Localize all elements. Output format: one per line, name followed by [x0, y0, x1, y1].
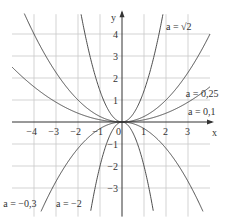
x-tick-label: −4	[26, 126, 37, 137]
y-tick-label: 3	[113, 51, 118, 62]
y-axis-label: y	[111, 12, 116, 23]
x-tick-label: −2	[70, 126, 81, 137]
x-tick-label: −3	[48, 126, 59, 137]
curve-label: a = −2	[56, 198, 82, 209]
x-tick-label: 1	[141, 126, 146, 137]
y-tick-label: −2	[107, 161, 118, 172]
curve-label: a = 0,1	[188, 106, 216, 117]
y-tick-label: 2	[113, 73, 118, 84]
x-tick-label: 3	[185, 126, 190, 137]
parabola-family-chart: x y −4−3−2−10123−3−2−11234 a = √2a = 0,2…	[0, 0, 228, 220]
y-tick-label: −1	[107, 139, 118, 150]
curve-label: a = −0,3	[3, 198, 36, 209]
y-tick-label: 4	[113, 29, 118, 40]
curve-label: a = √2	[166, 21, 192, 32]
x-tick-label: 0	[116, 126, 121, 137]
y-tick-label: −3	[107, 183, 118, 194]
x-axis-arrow-icon	[207, 120, 214, 125]
tick-labels: −4−3−2−10123−3−2−11234	[26, 29, 190, 194]
curve-label: a = 0,25	[186, 88, 219, 99]
x-tick-label: −1	[92, 126, 103, 137]
y-tick-label: 1	[113, 95, 118, 106]
x-tick-label: 2	[163, 126, 168, 137]
x-axis-label: x	[212, 127, 217, 138]
y-axis-arrow-icon	[120, 10, 125, 17]
